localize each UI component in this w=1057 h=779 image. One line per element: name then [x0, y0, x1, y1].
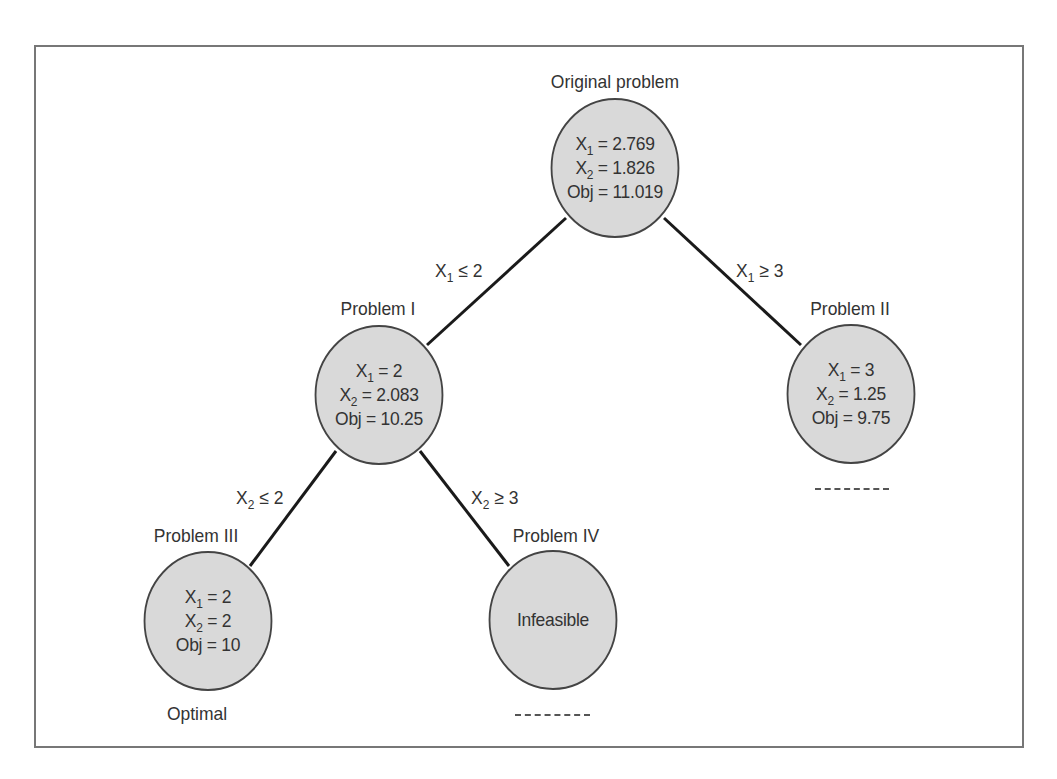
status-label-optimal: Optimal — [167, 703, 227, 725]
unexplored-marker-problem-2 — [815, 488, 889, 490]
x1-value: X1 = 2.769 — [575, 132, 654, 156]
node-problem-3: X1 = 2 X2 = 2 Obj = 10 — [144, 551, 273, 691]
node-problem-2: X1 = 3 X2 = 1.25 Obj = 9.75 — [787, 324, 916, 464]
branch-label-x1-ge-3: X1 ≥ 3 — [736, 260, 783, 282]
node-title-problem-1: Problem I — [341, 298, 416, 320]
node-title-problem-3: Problem III — [154, 525, 239, 547]
node-problem-1: X1 = 2 X2 = 2.083 Obj = 10.25 — [315, 325, 444, 465]
branch-label-x2-ge-3: X2 ≥ 3 — [471, 487, 518, 509]
infeasible-label: Infeasible — [517, 608, 589, 632]
node-original-problem: X1 = 2.769 X2 = 1.826 Obj = 11.019 — [551, 98, 680, 238]
node-title-problem-4: Problem IV — [513, 525, 599, 547]
x2-value: X2 = 1.826 — [575, 156, 654, 180]
x2-value: X2 = 2.083 — [339, 383, 418, 407]
node-title-problem-2: Problem II — [810, 298, 890, 320]
branch-label-x2-le-2: X2 ≤ 2 — [236, 487, 283, 509]
x1-value: X1 = 2 — [185, 585, 231, 609]
node-problem-4: Infeasible — [489, 550, 618, 690]
objective-value: Obj = 11.019 — [567, 180, 663, 204]
x2-value: X2 = 2 — [185, 609, 231, 633]
objective-value: Obj = 9.75 — [812, 406, 890, 430]
x1-value: X1 = 2 — [356, 359, 402, 383]
node-title-original: Original problem — [551, 71, 679, 93]
objective-value: Obj = 10.25 — [335, 407, 423, 431]
unexplored-marker-problem-4 — [515, 714, 590, 716]
x2-value: X2 = 1.25 — [816, 382, 886, 406]
branch-label-x1-le-2: X1 ≤ 2 — [435, 260, 482, 282]
objective-value: Obj = 10 — [176, 633, 240, 657]
x1-value: X1 = 3 — [828, 358, 874, 382]
